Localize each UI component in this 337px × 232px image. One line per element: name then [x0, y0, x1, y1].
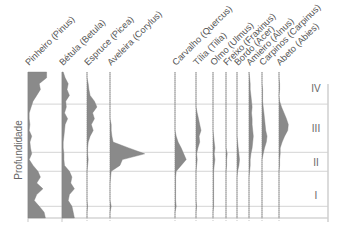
pollen-curve-2	[62, 72, 74, 218]
pollen-curve-3	[87, 72, 97, 218]
zone-label: III	[312, 123, 320, 134]
pollen-curve-4	[110, 72, 145, 218]
zone-label: I	[315, 190, 318, 201]
zone-label: IV	[311, 83, 321, 94]
pollen-curve-7	[213, 72, 215, 218]
zone-label: II	[313, 157, 319, 168]
pollen-curve-11	[262, 72, 267, 218]
pollen-curve-5	[175, 72, 186, 218]
pollen-curve-1	[28, 72, 47, 218]
taxon-labels: Pinheiro (Pinus)Bétula (Betula)Espruce (…	[23, 2, 322, 67]
pollen-curve-10	[249, 72, 253, 218]
pollen-curve-12	[279, 72, 288, 218]
pollen-curve-8	[226, 72, 227, 218]
pollen-curve-6	[196, 72, 201, 218]
pollen-diagram: Pinheiro (Pinus)Bétula (Betula)Espruce (…	[0, 0, 337, 232]
y-axis-label: Profundidade	[13, 120, 24, 180]
zone-labels: IVIIIIII	[311, 83, 321, 201]
